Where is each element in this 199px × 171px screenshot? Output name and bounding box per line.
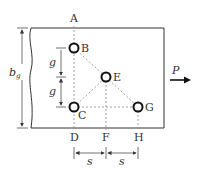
spacing-dimension: s s: [74, 147, 138, 168]
bolt-pattern-diagram: A B C E G D F H bg g g s s P: [0, 0, 199, 171]
label-e: E: [113, 71, 121, 84]
label-f: F: [102, 131, 110, 144]
label-a: A: [69, 12, 79, 25]
gauge-lower-label: g: [49, 85, 56, 98]
label-h: H: [134, 131, 144, 144]
label-c: C: [78, 109, 86, 122]
label-d: D: [70, 131, 79, 144]
bolt-hole-e: [102, 73, 111, 82]
gross-width-dimension: bg: [8, 28, 28, 128]
load-arrow: P: [170, 64, 191, 84]
label-b: B: [81, 42, 89, 55]
gauge-upper-label: g: [49, 56, 56, 69]
bolt-hole-b: [70, 44, 79, 53]
load-label: P: [171, 64, 180, 77]
plate-outline: [30, 28, 164, 128]
spacing-right-label: s: [119, 155, 125, 168]
spacing-left-label: s: [87, 155, 93, 168]
bolt-hole-g: [134, 103, 143, 112]
break-line: [30, 28, 32, 128]
arrow-right-icon: [184, 77, 191, 84]
label-g: G: [145, 101, 154, 114]
gauge-dimension: g g: [47, 48, 66, 107]
